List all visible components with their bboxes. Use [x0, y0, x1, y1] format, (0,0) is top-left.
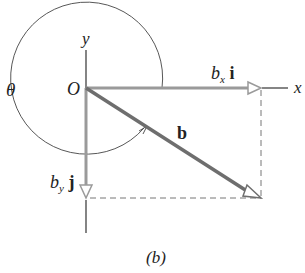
vector-diagram: y x O θ b bx i by j (b)	[0, 0, 305, 273]
by-j-label: by j	[50, 173, 74, 191]
bx-base: b	[211, 63, 220, 83]
by-sub: y	[59, 182, 64, 194]
vector-b-label: b	[177, 124, 187, 142]
bx-i-label: bx i	[211, 64, 234, 82]
y-axis-label: y	[82, 30, 90, 47]
by-base: b	[50, 172, 59, 192]
angle-label: θ	[6, 80, 15, 99]
by-arrowhead-icon	[80, 185, 92, 198]
vector-b	[86, 88, 250, 193]
bx-sub: x	[220, 73, 225, 85]
vector-b-arrowhead-icon	[243, 185, 261, 198]
x-axis-label: x	[294, 79, 302, 96]
origin-label: O	[67, 80, 80, 98]
by-unit: j	[68, 172, 74, 192]
bx-unit: i	[229, 63, 234, 83]
diagram-canvas	[0, 0, 305, 273]
bx-arrowhead-icon	[248, 82, 261, 94]
caption: (b)	[146, 249, 166, 266]
